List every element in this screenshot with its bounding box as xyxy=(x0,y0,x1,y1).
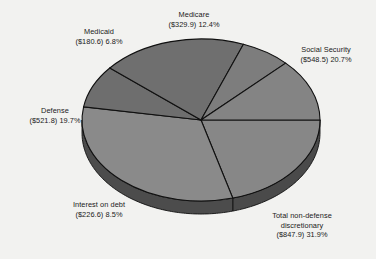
pie-chart: Medicare ($329.9) 12.4% Social Security … xyxy=(0,0,376,259)
slice-label-social-security: Social Security ($548.5) 20.7% xyxy=(278,45,374,64)
slice-label-medicaid-value: ($180.6) 6.8% xyxy=(50,37,148,47)
slice-label-defense-value: ($521.8) 19.7% xyxy=(6,116,104,126)
slice-label-medicare: Medicare ($329.9) 12.4% xyxy=(138,10,250,29)
slice-label-medicare-name: Medicare xyxy=(138,10,250,20)
slice-label-medicaid-name: Medicaid xyxy=(50,27,148,37)
slice-label-interest-on-debt-value: ($226.6) 8.5% xyxy=(44,210,154,220)
slice-label-non-defense-discretionary-value: ($847.9) 31.9% xyxy=(248,230,356,240)
slice-label-medicaid: Medicaid ($180.6) 6.8% xyxy=(50,27,148,46)
slice-label-social-security-value: ($548.5) 20.7% xyxy=(278,55,374,65)
slice-label-medicare-value: ($329.9) 12.4% xyxy=(138,20,250,30)
slice-label-non-defense-discretionary-name2: discretionary xyxy=(248,221,356,231)
slice-label-non-defense-discretionary-name1: Total non-defense xyxy=(248,211,356,221)
slice-label-non-defense-discretionary: Total non-defense discretionary ($847.9)… xyxy=(248,211,356,240)
slice-label-defense: Defense ($521.8) 19.7% xyxy=(6,106,104,125)
slice-label-social-security-name: Social Security xyxy=(278,45,374,55)
slice-label-interest-on-debt: Interest on debt ($226.6) 8.5% xyxy=(44,200,154,219)
slice-label-defense-name: Defense xyxy=(6,106,104,116)
pie-slices-group xyxy=(82,39,320,214)
slice-label-interest-on-debt-name: Interest on debt xyxy=(44,200,154,210)
